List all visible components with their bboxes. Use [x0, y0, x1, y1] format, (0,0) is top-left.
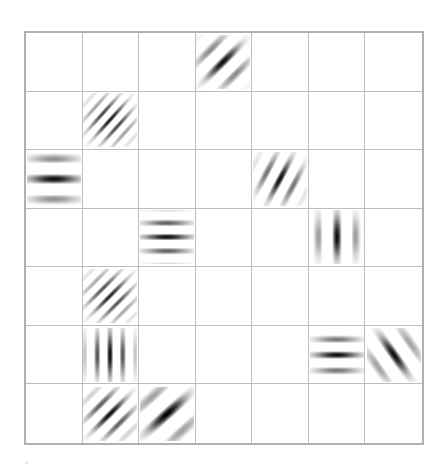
grid-cell-r7c6	[309, 384, 366, 443]
grid-cell-r3c2	[83, 150, 140, 209]
grid-cell-r4c7	[365, 209, 422, 268]
grid-cell-r1c7	[365, 33, 422, 92]
patch-r5c2	[83, 269, 137, 323]
grid-cell-r1c2	[83, 33, 140, 92]
grid-cell-r2c6	[309, 92, 366, 151]
patch-r6c7	[367, 328, 421, 382]
grid-cell-r7c3	[139, 384, 196, 443]
grid-cell-r2c3	[139, 92, 196, 151]
grid-cell-r4c1	[26, 209, 83, 268]
patch-r4c6	[310, 210, 364, 264]
patch-r7c2	[83, 387, 137, 441]
grid-cell-r5c4	[196, 267, 253, 326]
grid-cell-r4c3	[139, 209, 196, 268]
grid-cell-r2c1	[26, 92, 83, 151]
patch-r7c3	[140, 387, 194, 441]
grid-cell-r7c5	[252, 384, 309, 443]
grid-cell-r2c4	[196, 92, 253, 151]
grid-cell-r3c6	[309, 150, 366, 209]
grid-cell-r2c7	[365, 92, 422, 151]
grid-border	[24, 31, 424, 445]
grid-cell-r6c3	[139, 326, 196, 385]
gabor-grid-figure	[0, 0, 447, 474]
grid-cell-r5c6	[309, 267, 366, 326]
grid-cell-r2c2	[83, 92, 140, 151]
grid-cell-r1c4	[196, 33, 253, 92]
grid-cell-r6c7	[365, 326, 422, 385]
patch-r3c5	[253, 152, 307, 206]
grid-cell-r5c3	[139, 267, 196, 326]
grid-cell-r4c4	[196, 209, 253, 268]
grid-cell-r4c5	[252, 209, 309, 268]
grid-cell-r6c2	[83, 326, 140, 385]
grid-cell-r3c5	[252, 150, 309, 209]
grid-cell-r3c3	[139, 150, 196, 209]
grid-cell-r3c1	[26, 150, 83, 209]
grid-cell-r6c6	[309, 326, 366, 385]
patch-r4c3	[140, 210, 194, 264]
grid-cell-r1c5	[252, 33, 309, 92]
stray-speck	[25, 461, 28, 464]
patch-r1c4	[196, 35, 250, 89]
patch-r2c2	[83, 93, 137, 147]
grid-cell-r4c2	[83, 209, 140, 268]
grid-cell-r3c7	[365, 150, 422, 209]
grid-cell-r5c2	[83, 267, 140, 326]
grid-cell-r2c5	[252, 92, 309, 151]
grid-cell-r6c1	[26, 326, 83, 385]
grid-cell-r1c6	[309, 33, 366, 92]
grid-cell-r6c5	[252, 326, 309, 385]
grid-cell-r7c7	[365, 384, 422, 443]
patch-r6c2	[83, 328, 137, 382]
grid-cell-r5c1	[26, 267, 83, 326]
grid-cell-r1c3	[139, 33, 196, 92]
patch-r6c6	[310, 328, 364, 382]
grid-cell-r7c1	[26, 384, 83, 443]
grid-cell-r4c6	[309, 209, 366, 268]
grid-cell-r3c4	[196, 150, 253, 209]
gabor-grid	[26, 33, 422, 443]
grid-cell-r1c1	[26, 33, 83, 92]
grid-cell-r7c2	[83, 384, 140, 443]
grid-cell-r6c4	[196, 326, 253, 385]
grid-cell-r5c7	[365, 267, 422, 326]
grid-cell-r7c4	[196, 384, 253, 443]
grid-cell-r5c5	[252, 267, 309, 326]
patch-r3c1	[27, 152, 81, 206]
